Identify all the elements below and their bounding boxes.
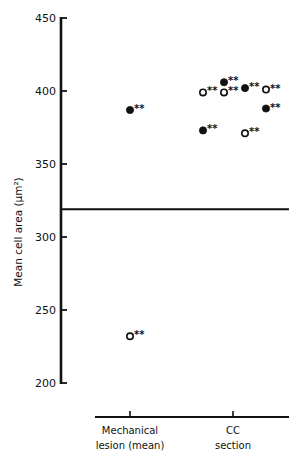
- open-circle-marker: [263, 86, 269, 92]
- y-axis-title: Mean cell area (μm²): [12, 177, 24, 286]
- x-category-label: lesion (mean): [96, 440, 165, 451]
- x-category-label: Mechanical: [102, 425, 158, 436]
- significance-annotation: **: [134, 329, 145, 340]
- x-category-label: CC: [226, 425, 240, 436]
- significance-annotation: **: [228, 85, 239, 96]
- y-tick-label: 250: [35, 304, 56, 317]
- y-tick-label: 400: [35, 85, 56, 98]
- filled-circle-marker: [199, 127, 206, 134]
- scatter-chart: 200250300350400450 Mean cell area (μm²) …: [0, 0, 297, 465]
- open-circle-marker: [200, 89, 206, 95]
- filled-circle-marker: [241, 84, 248, 91]
- y-axis: 200250300350400450: [35, 12, 67, 390]
- filled-circle-marker: [220, 79, 227, 86]
- filled-circle-marker: [126, 106, 133, 113]
- open-circle-marker: [221, 89, 227, 95]
- significance-annotation: **: [270, 83, 281, 94]
- significance-annotation: **: [207, 85, 218, 96]
- y-axis-label: Mean cell area (μm²): [12, 177, 24, 286]
- significance-annotation: **: [249, 126, 260, 137]
- y-tick-label: 350: [35, 158, 56, 171]
- x-axis: Mechanicallesion (mean)CCsection: [95, 411, 289, 451]
- y-tick-label: 200: [35, 377, 56, 390]
- open-circle-marker: [242, 130, 248, 136]
- open-circle-marker: [127, 333, 133, 339]
- x-category-label: section: [215, 440, 251, 451]
- significance-annotation: **: [270, 102, 281, 113]
- data-points: ********************: [126, 75, 281, 340]
- significance-annotation: **: [134, 103, 145, 114]
- filled-circle-marker: [262, 105, 269, 112]
- significance-annotation: **: [249, 81, 260, 92]
- y-tick-label: 450: [35, 12, 56, 25]
- y-tick-label: 300: [35, 231, 56, 244]
- significance-annotation: **: [207, 123, 218, 134]
